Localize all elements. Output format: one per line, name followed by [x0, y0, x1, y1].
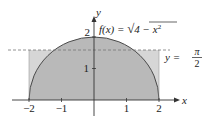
- x-tick-label: 2: [156, 102, 162, 114]
- y-tick-label: 2: [85, 26, 91, 38]
- function-label: f(x) = √4 − x2: [99, 21, 177, 36]
- x-tick-label: −2: [23, 102, 35, 114]
- y-axis-label: y: [95, 6, 101, 18]
- chart: −2 −1 1 2 1 2 x y f(x) = √4 − x2 y = π 2: [0, 0, 205, 120]
- x-axis-arrow-icon: [174, 98, 180, 103]
- x-tick-label: −1: [56, 102, 68, 114]
- radicand: 4 − x: [134, 23, 157, 35]
- function-label-lhs: f(x) =: [99, 23, 127, 36]
- x-axis-label: x: [181, 94, 187, 106]
- svg-text:f(x) = √4 − x2: f(x) = √4 − x2: [99, 21, 162, 36]
- y-tick-label: 1: [84, 62, 90, 74]
- line-label-num: π: [194, 46, 200, 57]
- x-tick-label: 1: [124, 102, 130, 114]
- line-label-den: 2: [195, 58, 200, 69]
- pi-over-2-label: y = π 2: [164, 46, 202, 69]
- line-label-lhs: y =: [164, 51, 180, 63]
- exponent: 2: [158, 23, 162, 31]
